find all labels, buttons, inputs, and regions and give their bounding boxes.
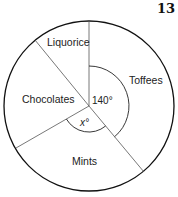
label-mints: Mints — [72, 155, 97, 167]
divider-chocolates-mints — [16, 106, 89, 148]
label-toffees: Toffees — [129, 74, 163, 86]
label-chocolates: Chocolates — [22, 93, 75, 105]
label-liquorice: Liquorice — [47, 36, 90, 48]
pie-chart-diagram: Liquorice Toffees Mints Chocolates 140° … — [0, 0, 178, 197]
angle-label-x: x° — [79, 117, 89, 128]
divider-toffees-mints — [89, 106, 144, 172]
angle-label-140: 140° — [92, 95, 113, 106]
